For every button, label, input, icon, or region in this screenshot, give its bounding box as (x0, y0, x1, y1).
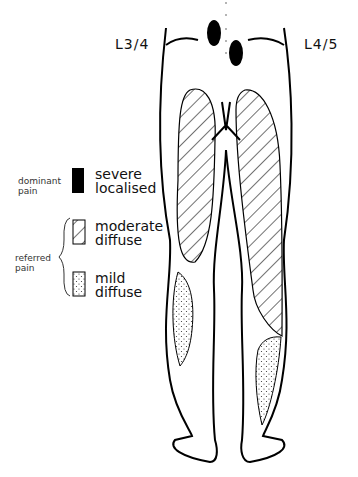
lesion-l45 (229, 40, 243, 66)
referred-brace (59, 218, 70, 296)
pain-distribution-diagram: L3/4 L4/5 dominant pain referred pain se… (0, 0, 358, 477)
level-label-l34: L3/4 (115, 36, 149, 52)
legend-swatch-moderate (73, 220, 85, 244)
legend-item-severe: severe localised (95, 167, 156, 195)
legend-item-mild: mild diffuse (95, 271, 142, 299)
legend-swatch-mild (73, 272, 85, 296)
legend-dominant-label: dominant pain (18, 176, 61, 196)
legend-item-moderate: moderate diffuse (95, 219, 163, 247)
lesion-l34 (207, 20, 221, 46)
moderate-area-right (236, 90, 282, 336)
mild-area-left (173, 272, 193, 366)
mild-area-right (256, 337, 281, 425)
spine-midline (225, 2, 227, 54)
level-label-l45: L4/5 (304, 36, 338, 52)
moderate-area-left (177, 89, 215, 262)
legend-swatch-severe (72, 168, 84, 193)
legend-referred-label: referred pain (15, 253, 51, 273)
legs-illustration (0, 0, 358, 477)
